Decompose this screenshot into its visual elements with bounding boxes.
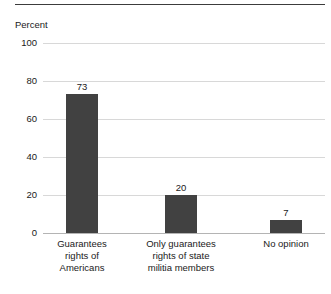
bar-no-opinion [270, 220, 302, 233]
y-tick-label-0: 0 [0, 228, 37, 238]
category-label-1: Guarantees rights of Americans [27, 238, 137, 274]
y-tick-label-80: 80 [0, 76, 37, 86]
plot-area [43, 43, 325, 233]
category-label-1-line-3: Americans [27, 262, 137, 274]
y-tick-label-100: 100 [0, 38, 37, 48]
bar-value-label-1: 73 [52, 82, 112, 92]
y-tick-label-40: 40 [0, 152, 37, 162]
category-label-2-line-2: rights of state [126, 250, 236, 262]
gridline-100 [43, 43, 325, 44]
category-label-2-line-3: militia members [126, 262, 236, 274]
y-tick-label-60: 60 [0, 114, 37, 124]
bar-chart-figure: Percent 100 80 60 40 20 0 73 20 7 Guaran… [0, 0, 331, 294]
category-label-3: No opinion [231, 238, 331, 250]
category-label-1-line-2: rights of [27, 250, 137, 262]
category-label-2: Only guarantees rights of state militia … [126, 238, 236, 274]
top-divider-rule [15, 4, 325, 5]
y-axis-title: Percent [15, 19, 48, 30]
bar-value-label-2: 20 [151, 183, 211, 193]
category-label-2-line-1: Only guarantees [126, 238, 236, 250]
bar-value-label-3: 7 [256, 208, 316, 218]
y-tick-label-20: 20 [0, 190, 37, 200]
bar-only-guarantees-state-militia [165, 195, 197, 233]
category-label-3-line-1: No opinion [231, 238, 331, 250]
category-label-1-line-1: Guarantees [27, 238, 137, 250]
gridline-0-baseline [43, 233, 325, 234]
bar-guarantees-rights-of-americans [66, 94, 98, 233]
